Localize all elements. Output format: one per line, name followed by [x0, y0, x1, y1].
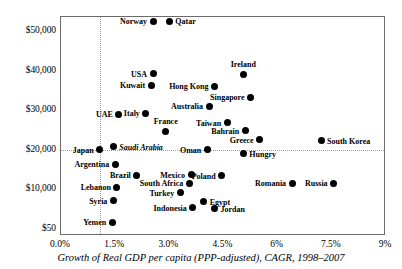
- data-point-label: Ireland: [231, 60, 256, 69]
- x-axis-tick-label: 4.5%: [203, 239, 243, 249]
- x-axis-tick-label: 1.5%: [94, 239, 134, 249]
- data-point-label: Hungry: [249, 149, 276, 158]
- data-point[interactable]: [150, 70, 157, 77]
- data-point[interactable]: [110, 197, 117, 204]
- y-axis-tick-label: $10,000: [26, 183, 56, 193]
- data-point-label: Japan: [73, 145, 94, 154]
- data-point[interactable]: [289, 180, 296, 187]
- data-point-label: Romania: [255, 179, 286, 188]
- data-point-label: Poland: [192, 171, 216, 180]
- data-point[interactable]: [186, 180, 193, 187]
- plot-area: NorwayQatarUSAIrelandKuwaitHong KongSing…: [60, 16, 385, 235]
- data-point-label: Jordan: [220, 204, 244, 213]
- data-point[interactable]: [240, 150, 247, 157]
- data-point-label: Turkey: [150, 188, 175, 197]
- data-point-label: UAE: [96, 110, 113, 119]
- data-point[interactable]: [211, 205, 218, 212]
- data-point-label: Argentina: [74, 160, 109, 169]
- x-axis-tick-label: 6%: [257, 239, 297, 249]
- data-point-label: South Africa: [140, 179, 183, 188]
- data-point[interactable]: [162, 128, 169, 135]
- data-point-label: Saudi Arabia: [119, 142, 163, 151]
- data-point[interactable]: [177, 189, 184, 196]
- data-point-label: Bahrain: [211, 126, 239, 135]
- data-point[interactable]: [110, 143, 117, 150]
- data-point-label: Australia: [171, 102, 203, 111]
- data-point-label: Mexico: [160, 170, 185, 179]
- data-point-label: Russia: [305, 179, 328, 188]
- x-axis-tick-label: 9%: [365, 239, 402, 249]
- y-axis-tick-label: $50,000: [26, 25, 56, 35]
- data-point-label: South Korea: [327, 136, 370, 145]
- data-point[interactable]: [166, 18, 173, 25]
- data-point[interactable]: [112, 161, 119, 168]
- chart-caption: Growth of Real GDP per capita (PPP-adjus…: [0, 252, 402, 264]
- data-point[interactable]: [96, 146, 103, 153]
- data-point[interactable]: [150, 18, 157, 25]
- data-point[interactable]: [109, 219, 116, 226]
- horizontal-reference-gridline: [61, 150, 384, 151]
- data-point[interactable]: [242, 127, 249, 134]
- data-point-label: Qatar: [175, 17, 195, 26]
- data-point[interactable]: [240, 71, 247, 78]
- data-point-label: Lebanon: [81, 183, 111, 192]
- data-point[interactable]: [247, 94, 254, 101]
- data-point-label: Singapore: [210, 93, 245, 102]
- data-point[interactable]: [142, 110, 149, 117]
- data-point[interactable]: [113, 184, 120, 191]
- data-point-label: Kuwait: [120, 81, 145, 90]
- data-point-label: Greece: [230, 135, 254, 144]
- y-axis-tick-label: $20,000: [26, 144, 56, 154]
- data-point-label: USA: [131, 69, 147, 78]
- data-point[interactable]: [218, 172, 225, 179]
- data-point[interactable]: [318, 137, 325, 144]
- data-point[interactable]: [133, 172, 140, 179]
- x-axis-tick-label: 3.0%: [148, 239, 188, 249]
- data-point[interactable]: [189, 204, 196, 211]
- data-point[interactable]: [204, 146, 211, 153]
- data-point[interactable]: [256, 136, 263, 143]
- data-point-label: Brazil: [110, 171, 131, 180]
- data-point-label: Norway: [120, 17, 147, 26]
- data-point-label: Syria: [89, 196, 107, 205]
- data-point-label: Italy: [124, 109, 140, 118]
- data-point-label: Oman: [180, 145, 201, 154]
- y-axis-tick-label: $30,000: [26, 104, 56, 114]
- data-point-label: Indonesia: [153, 203, 186, 212]
- x-axis-tick-label: 7.5%: [311, 239, 351, 249]
- data-point[interactable]: [211, 83, 218, 90]
- data-point-label: Hong Kong: [169, 82, 208, 91]
- y-axis-tick-label: $40,000: [26, 65, 56, 75]
- data-point[interactable]: [148, 82, 155, 89]
- data-point-label: Yemen: [83, 218, 106, 227]
- data-point[interactable]: [330, 180, 337, 187]
- data-point[interactable]: [200, 198, 207, 205]
- scatter-chart-figure: NorwayQatarUSAIrelandKuwaitHong KongSing…: [0, 0, 402, 269]
- data-point[interactable]: [115, 111, 122, 118]
- data-point-label: France: [154, 117, 178, 126]
- data-point[interactable]: [206, 103, 213, 110]
- x-axis-tick-label: 0.0%: [40, 239, 80, 249]
- y-axis-tick-label: $50: [42, 223, 56, 233]
